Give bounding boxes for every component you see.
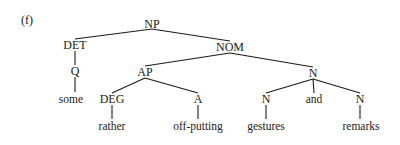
node-n-right: N xyxy=(356,93,365,105)
node-n-top: N xyxy=(309,67,318,79)
node-q: Q xyxy=(71,65,80,77)
node-n-left: N xyxy=(262,93,271,105)
word-rather: rather xyxy=(99,120,126,132)
node-np: NP xyxy=(144,18,159,30)
word-off-putting: off-putting xyxy=(173,120,223,132)
node-deg: DEG xyxy=(100,93,125,105)
node-det: DET xyxy=(63,39,86,51)
word-remarks: remarks xyxy=(342,120,379,132)
word-and: and xyxy=(306,93,323,105)
word-some: some xyxy=(59,93,83,105)
node-ap: AP xyxy=(137,66,152,78)
word-gestures: gestures xyxy=(247,120,285,132)
node-nom: NOM xyxy=(216,41,244,53)
node-a: A xyxy=(194,93,203,105)
